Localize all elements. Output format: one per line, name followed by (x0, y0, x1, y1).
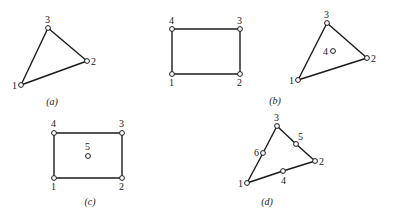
node-marker (296, 78, 301, 83)
node-marker (238, 72, 243, 77)
element-edge (277, 126, 296, 144)
node-marker (245, 181, 250, 186)
node-label: 3 (324, 9, 329, 20)
node-marker (275, 124, 280, 129)
node-marker (85, 59, 90, 64)
element-edge (298, 58, 367, 80)
node-label: 2 (371, 53, 376, 64)
node-label: 2 (319, 156, 324, 167)
element-edge (296, 144, 315, 161)
node-marker (294, 142, 299, 147)
node-marker (238, 27, 243, 32)
figure-caption: (c) (84, 196, 96, 208)
node-marker (19, 83, 24, 88)
node-label: 3 (45, 14, 50, 25)
figure-caption: (a) (46, 96, 58, 108)
node-marker (52, 131, 57, 136)
element-edge (48, 28, 87, 61)
node-marker (52, 176, 57, 181)
element-figure-a: 123(a) (12, 14, 96, 108)
node-marker (170, 27, 175, 32)
node-label: 4 (51, 118, 56, 129)
node-label: 2 (91, 56, 96, 67)
finite-element-diagram: 123(a)12341234(b)12345(c)123456(d) (0, 0, 394, 217)
element-figure-d: 123456(d) (238, 112, 324, 208)
element-figure-c: 12345(c) (51, 118, 124, 208)
figure-caption: (b) (269, 95, 281, 107)
node-label: 1 (169, 77, 174, 88)
node-marker (86, 154, 91, 159)
node-label: 1 (51, 181, 56, 192)
node-marker (313, 159, 318, 164)
node-label: 2 (119, 181, 124, 192)
node-marker (120, 131, 125, 136)
node-label: 3 (119, 118, 124, 129)
node-marker (261, 151, 266, 156)
element-figure-b: 1234(b) (269, 9, 376, 107)
node-marker (46, 26, 51, 31)
element-figure-b-quad: 1234 (169, 15, 242, 88)
node-label: 5 (85, 141, 90, 152)
node-label: 1 (289, 75, 294, 86)
node-label: 4 (169, 15, 174, 26)
node-label: 4 (281, 175, 286, 186)
element-edge (283, 161, 315, 171)
figure-caption: (d) (261, 196, 273, 208)
node-label: 5 (298, 131, 303, 142)
node-marker (281, 169, 286, 174)
node-marker (331, 49, 336, 54)
node-label: 1 (238, 178, 243, 189)
node-marker (365, 56, 370, 61)
node-label: 3 (237, 15, 242, 26)
node-label: 3 (274, 112, 279, 123)
node-label: 1 (12, 80, 17, 91)
node-marker (120, 176, 125, 181)
element-edge (263, 126, 277, 153)
node-label: 4 (323, 46, 328, 57)
node-label: 6 (254, 147, 259, 158)
node-marker (170, 72, 175, 77)
node-marker (325, 21, 330, 26)
node-label: 2 (237, 77, 242, 88)
